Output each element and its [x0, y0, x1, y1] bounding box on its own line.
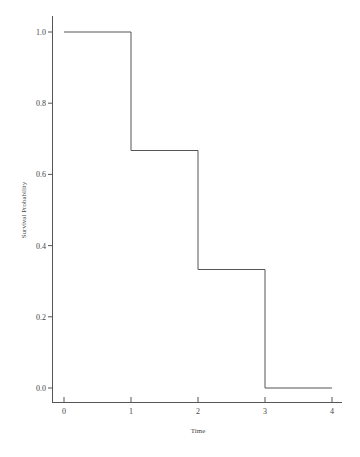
x-tick-label: 1 — [129, 407, 133, 416]
y-tick-label: 1.0 — [36, 28, 46, 37]
y-tick-label: 0.4 — [36, 242, 46, 251]
x-tick-label: 0 — [62, 407, 66, 416]
x-tick-label: 2 — [196, 407, 200, 416]
y-axis-title: Survival Probability — [20, 181, 28, 238]
survival-step-line — [64, 32, 332, 388]
y-tick-label: 0.2 — [36, 313, 46, 322]
y-tick-label: 0.6 — [36, 170, 46, 179]
y-tick-label: 0.0 — [36, 384, 46, 393]
y-tick-label: 0.8 — [36, 99, 46, 108]
survival-step-chart: 0.00.20.40.60.81.0 01234 Time Survival P… — [0, 0, 360, 457]
y-axis-ticks: 0.00.20.40.60.81.0 — [36, 28, 53, 393]
x-axis-title: Time — [191, 427, 206, 435]
x-tick-label: 3 — [263, 407, 267, 416]
x-tick-label: 4 — [330, 407, 334, 416]
x-axis-ticks: 01234 — [62, 397, 334, 416]
